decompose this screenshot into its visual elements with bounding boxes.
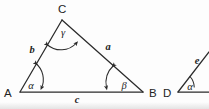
partial-figure-d-group: D e α — [163, 52, 209, 99]
angle-label-alpha: α — [28, 80, 34, 91]
angle-label-gamma: γ — [61, 27, 66, 38]
angle-label-beta: β — [120, 80, 127, 91]
partial-figure-side-label-e: e — [195, 55, 200, 66]
geometry-figure-canvas: A B C b a c α β γ D e α — [0, 0, 209, 109]
vertex-label-b: B — [149, 87, 157, 99]
side-label-a: a — [105, 41, 110, 52]
side-label-b: b — [29, 44, 34, 55]
angle-arc-gamma — [47, 43, 77, 50]
vertex-label-d: D — [163, 87, 171, 99]
vertex-label-c: C — [58, 3, 66, 15]
vertex-label-a: A — [4, 87, 12, 99]
partial-figure-angle-label-alpha: α — [187, 81, 193, 92]
angle-arc-alpha — [36, 64, 43, 89]
side-label-c: c — [75, 94, 80, 105]
triangle-abc-group: A B C b a c α β γ — [4, 3, 157, 105]
angle-arc-beta — [106, 66, 114, 89]
partial-figure-side-e — [178, 52, 209, 92]
triangle-side-b — [20, 20, 62, 92]
diagram-svg: A B C b a c α β γ D e α — [0, 0, 209, 109]
triangle-side-a — [62, 20, 143, 92]
